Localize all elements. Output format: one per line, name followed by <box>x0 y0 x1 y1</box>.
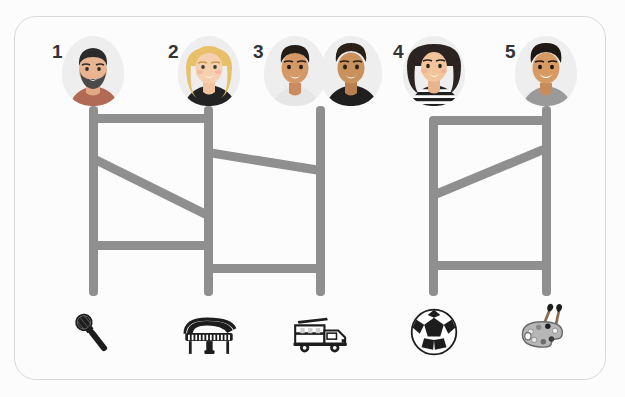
blonde-woman-avatar[interactable] <box>178 36 240 106</box>
rung-1-2-top <box>93 114 208 123</box>
bearded-man-avatar[interactable] <box>62 36 124 106</box>
long-hair-woman-avatar[interactable] <box>403 36 465 106</box>
rung-4-5-top <box>433 116 546 125</box>
rung-4-5-diagonal <box>431 144 547 199</box>
soccer-ball-icon <box>403 303 465 361</box>
participant-number-4: 4 <box>393 42 404 61</box>
grand-piano-icon <box>178 303 240 361</box>
ladder-vertical-1 <box>89 106 98 296</box>
microphone-icon <box>62 305 124 363</box>
dark-shirt-man-avatar[interactable] <box>320 36 382 106</box>
rung-1-2-lower <box>93 241 208 250</box>
artist-palette-icon <box>515 300 577 358</box>
smiling-man-avatar[interactable] <box>515 36 577 106</box>
screenshot-root: 1 2 3 4 5 <box>0 0 625 397</box>
rung-1-2-diagonal <box>91 154 210 219</box>
rung-2-3-diagonal <box>207 148 320 175</box>
fire-truck-icon <box>290 305 352 363</box>
participant-number-1: 1 <box>52 42 63 61</box>
participant-number-5: 5 <box>505 42 516 61</box>
participant-number-3: 3 <box>253 42 264 61</box>
rung-2-3-lower <box>208 264 320 273</box>
young-man-avatar[interactable] <box>264 36 326 106</box>
participant-number-2: 2 <box>168 42 179 61</box>
rung-4-5-lower <box>433 261 546 270</box>
